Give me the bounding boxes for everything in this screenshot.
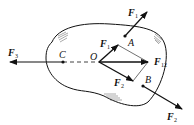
point-c-dot [61, 60, 64, 63]
point-a-dot [123, 34, 126, 37]
svg-text:F: F [127, 7, 135, 18]
label-f2-at-o: F 2 [113, 77, 124, 89]
rigid-body-outline [46, 24, 166, 106]
svg-text:1: 1 [135, 13, 138, 19]
point-label-c: C [59, 49, 66, 60]
point-label-b: B [145, 74, 151, 85]
point-label-a: A [127, 37, 135, 48]
svg-text:F: F [166, 111, 174, 122]
label-f3: F 3 [7, 47, 18, 59]
hatch-top-left [58, 32, 68, 42]
svg-text:F: F [113, 77, 121, 88]
point-label-o: O [90, 51, 97, 62]
svg-text:F: F [7, 47, 15, 58]
force-diagram: O A B C F 1 F 1 F 2 F 12 F 2 F 3 [0, 0, 194, 125]
label-f12: F 12 [153, 56, 167, 68]
label-f1-at-o: F 1 [99, 38, 110, 50]
svg-text:3: 3 [15, 53, 18, 59]
force-arrow-f2-at-b [143, 86, 182, 109]
svg-text:F: F [153, 56, 161, 67]
label-f1-at-a: F 1 [127, 7, 138, 19]
svg-text:2: 2 [121, 83, 124, 89]
svg-text:12: 12 [161, 62, 167, 68]
svg-text:1: 1 [107, 44, 110, 50]
hatch-top-right [154, 34, 162, 44]
svg-text:F: F [99, 38, 107, 49]
label-f2-at-b: F 2 [166, 111, 177, 123]
svg-text:2: 2 [174, 117, 177, 123]
